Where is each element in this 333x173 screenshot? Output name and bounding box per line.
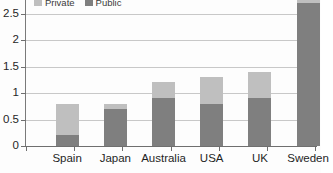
x-axis-label-sweden: Sweden [268,152,333,165]
x-tick [267,147,268,151]
bar-australia [152,82,175,146]
x-tick [74,147,75,151]
y-axis-label: 1 [13,87,19,98]
y-axis-label: 1.5 [3,61,19,72]
y-axis-line [25,0,26,147]
x-tick [26,147,27,151]
y-axis-label: 2.5 [3,8,19,19]
x-tick [315,147,316,151]
gridline-2-5 [26,14,316,15]
gridline-2 [26,40,316,41]
bar-segment-private [56,104,79,136]
bar-segment-public [152,98,175,146]
bar-segment-private [297,0,320,3]
bar-segment-public [248,98,271,146]
y-tick-1 [21,93,26,94]
legend-swatch-private [34,0,42,6]
x-tick [171,147,172,151]
bar-segment-public [56,135,79,146]
x-tick [219,147,220,151]
plot-area [26,0,316,146]
legend-swatch-public [85,0,93,6]
y-axis-label: 2 [13,34,19,45]
chart-legend: Private Public [34,0,121,8]
bar-segment-public [297,3,320,146]
gridline-1-5 [26,67,316,68]
y-tick-2-5 [21,14,26,15]
legend-entry-public: Public [85,0,122,7]
y-tick-0-5 [21,120,26,121]
bar-spain [56,104,79,146]
y-axis-label: 0 [13,140,19,151]
y-tick-1-5 [21,67,26,68]
legend-label-public: Public [96,0,122,7]
bar-uk [248,72,271,146]
bar-segment-private [152,82,175,98]
y-tick-2 [21,40,26,41]
bar-segment-public [104,109,127,146]
x-tick [122,147,123,151]
y-axis-label: 0.5 [3,114,19,125]
legend-label-private: Private [45,0,75,7]
bar-japan [104,104,127,146]
bar-sweden [297,0,320,146]
y-axis-labels: 00.511.522.5 [0,0,19,173]
bar-segment-private [104,104,127,109]
legend-entry-private: Private [34,0,75,7]
bar-segment-private [248,72,271,99]
bar-segment-public [200,104,223,146]
bar-segment-private [200,77,223,104]
bar-usa [200,77,223,146]
